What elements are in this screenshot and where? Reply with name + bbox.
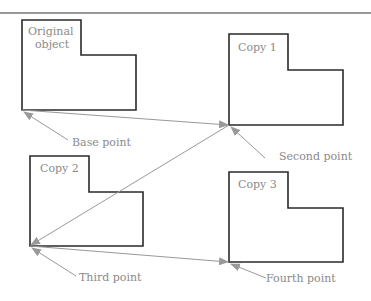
svg-text:Copy 1: Copy 1	[238, 41, 277, 54]
copy3-label: Copy 3	[238, 178, 277, 191]
original-object-shape: Original object	[22, 20, 136, 110]
svg-text:object: object	[35, 38, 70, 51]
original-label-line1: Original	[28, 25, 74, 38]
copy1-label: Copy 1	[238, 41, 277, 54]
copy3-shape: Copy 3	[229, 172, 343, 262]
base-point-label: Base point	[72, 136, 132, 149]
fourth-point-label: Fourth point	[266, 272, 336, 285]
svg-text:Third point: Third point	[79, 271, 142, 284]
original-label-line2: object	[35, 38, 70, 51]
arrow-third-to-fourth	[30, 246, 228, 262]
svg-text:Second point: Second point	[279, 150, 353, 163]
leader-second-point	[231, 127, 265, 158]
copy1-shape: Copy 1	[229, 34, 343, 125]
copy-command-diagram: Original object Copy 1 Copy 2 Copy 3 Bas…	[0, 0, 371, 301]
arrow-base-to-second	[22, 110, 228, 125]
svg-text:Copy 2: Copy 2	[40, 162, 79, 175]
leader-fourth-point	[231, 264, 266, 278]
svg-text:Original: Original	[28, 25, 74, 38]
svg-text:Copy 3: Copy 3	[238, 178, 277, 191]
second-point-label: Second point	[279, 150, 353, 163]
leader-third-point	[32, 248, 76, 276]
svg-text:Base point: Base point	[72, 136, 132, 149]
copy2-shape: Copy 2	[30, 156, 143, 246]
third-point-label: Third point	[79, 271, 142, 284]
svg-text:Fourth point: Fourth point	[266, 272, 336, 285]
copy2-label: Copy 2	[40, 162, 79, 175]
leader-base-point	[24, 112, 68, 140]
